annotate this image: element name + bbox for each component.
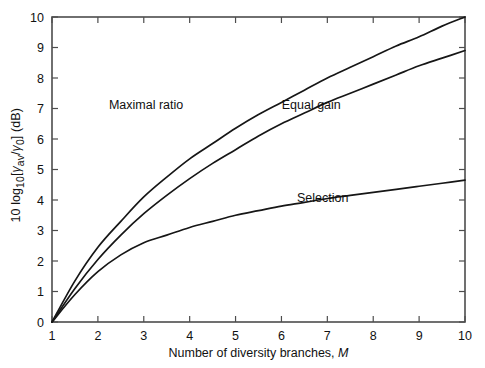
y-tick-label: 0 — [37, 316, 44, 330]
chart-background — [0, 0, 485, 368]
x-tick-label: 7 — [324, 329, 331, 343]
y-tick-label: 6 — [37, 133, 44, 147]
y-tick-label: 4 — [37, 194, 44, 208]
x-tick-label: 5 — [232, 329, 239, 343]
y-tick-label: 10 — [30, 11, 44, 25]
y-tick-label: 2 — [37, 255, 44, 269]
x-tick-label: 9 — [416, 329, 423, 343]
y-tick-label: 1 — [37, 285, 44, 299]
plot-area: 12345678910 012345678910 Maximal ratioEq… — [0, 0, 485, 368]
y-tick-label: 8 — [37, 72, 44, 86]
diversity-gain-chart: 10 log10[γav/γ0] (dB) 12345678910 012345… — [0, 0, 485, 368]
x-tick-label: 2 — [94, 329, 101, 343]
annotation-maximal-ratio: Maximal ratio — [109, 98, 183, 112]
x-tick-label: 6 — [278, 329, 285, 343]
x-tick-label: 1 — [49, 329, 56, 343]
x-axis-label-text: Number of diversity branches, — [169, 346, 335, 360]
x-tick-label: 4 — [186, 329, 193, 343]
y-tick-label: 5 — [37, 163, 44, 177]
x-tick-label: 3 — [140, 329, 147, 343]
x-tick-label: 10 — [458, 329, 472, 343]
x-axis-label: Number of diversity branches, M — [52, 346, 465, 360]
x-axis-label-variable: M — [338, 346, 348, 360]
y-tick-label: 3 — [37, 224, 44, 238]
annotation-equal-gain: Equal gain — [282, 98, 341, 112]
y-tick-label: 9 — [37, 41, 44, 55]
x-tick-label: 8 — [370, 329, 377, 343]
y-tick-label: 7 — [37, 102, 44, 116]
annotation-selection: Selection — [297, 191, 348, 205]
